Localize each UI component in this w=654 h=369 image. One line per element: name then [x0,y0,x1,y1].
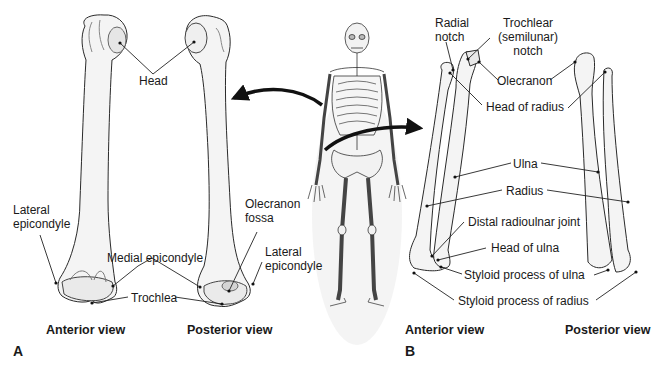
label-olecranon-fossa: Olecranon fossa [245,197,305,225]
view-label-posterior-b: Posterior view [565,323,650,337]
panel-letter-b: B [405,343,415,359]
label-head-of-radius: Head of radius [486,100,564,114]
forearm-anterior [410,50,480,271]
label-styloid-process-of-radius: Styloid process of radius [458,294,589,308]
forearm-posterior [574,53,630,272]
label-olecranon: Olecranon [497,74,552,88]
view-label-posterior-a: Posterior view [187,323,272,337]
label-trochlear-notch: Trochlear (semilunar) notch [492,16,564,58]
label-styloid-process-of-ulna: Styloid process of ulna [464,268,585,282]
label-radial-notch: Radial notch [435,16,475,44]
panel-letter-a: A [13,343,23,359]
label-lateral-epicondyle-anterior: Lateral epicondyle [13,203,83,231]
label-medial-epicondyle: Medial epicondyle [107,251,203,265]
label-radius: Radius [506,184,543,198]
skeleton-figure [308,23,406,345]
label-head-of-ulna: Head of ulna [491,241,559,255]
label-distal-radioulnar-joint: Distal radioulnar joint [468,215,580,229]
label-head: Head [139,74,168,88]
anatomy-figure: Head Lateral epicondyle Medial epicondyl… [0,0,654,369]
view-label-anterior-b: Anterior view [405,323,484,337]
view-label-anterior-a: Anterior view [46,323,125,337]
label-lateral-epicondyle-posterior: Lateral epicondyle [265,245,335,273]
arrow-to-humerus [234,90,322,105]
label-trochlea: Trochlea [131,291,177,305]
label-ulna: Ulna [513,157,538,171]
